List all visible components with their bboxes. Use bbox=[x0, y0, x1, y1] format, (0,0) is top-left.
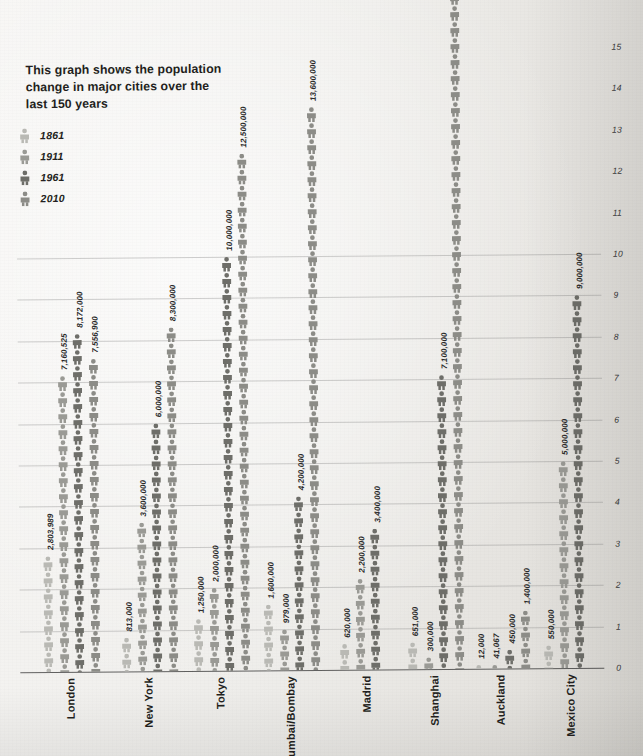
bar-value-label: 3,400,000 bbox=[372, 486, 381, 523]
bar-value-label: 1,250,000 bbox=[196, 577, 205, 614]
bar-value-label: 12,000 bbox=[477, 634, 486, 659]
bar-fill bbox=[220, 257, 236, 671]
bar-fill bbox=[262, 604, 276, 670]
bar-1961[interactable]: 4,200,000 bbox=[292, 496, 306, 670]
bar-fill bbox=[304, 107, 321, 670]
bar-value-label: 1,600,000 bbox=[266, 562, 275, 599]
bar-value-label: 8,300,000 bbox=[168, 285, 177, 322]
bar-1861[interactable]: 651,000 bbox=[406, 642, 419, 669]
bar-1861[interactable]: 1,600,000 bbox=[262, 604, 276, 670]
bar-value-label: 979,000 bbox=[282, 594, 291, 624]
bar-value-label: 6,000,000 bbox=[154, 380, 163, 417]
bar-fill bbox=[503, 650, 516, 669]
bar-group-new-york: 813,0003,600,0006,000,0008,300,000 bbox=[115, 1, 182, 671]
bar-1861[interactable]: 12,000 bbox=[472, 665, 485, 669]
bar-group-london: 2,803,9897,160,5258,172,0007,556,900 bbox=[37, 2, 104, 672]
bar-value-label: 2,000,000 bbox=[211, 546, 220, 583]
bar-1911[interactable]: 2,000,000 bbox=[207, 588, 221, 671]
bar-value-label: 2,200,000 bbox=[357, 536, 366, 573]
bar-fill bbox=[338, 644, 351, 670]
bar-1961[interactable]: 3,400,000 bbox=[368, 529, 382, 670]
bar-1961[interactable]: 10,000,000 bbox=[220, 257, 236, 671]
bar-2010[interactable]: 8,300,000 bbox=[164, 328, 180, 672]
bar-1911[interactable]: 300,000 bbox=[422, 657, 435, 670]
bar-group-madrid: 620,0002,200,0003,400,000 bbox=[333, 0, 385, 670]
bar-fill bbox=[435, 375, 450, 669]
bar-value-label: 7,160,525 bbox=[60, 333, 69, 370]
bar-1861[interactable]: 2,803,989 bbox=[41, 556, 55, 672]
bar-value-label: 7,556,900 bbox=[91, 316, 100, 353]
bar-1911[interactable]: 3,600,000 bbox=[135, 522, 149, 671]
bar-1961[interactable]: 8,172,000 bbox=[71, 334, 87, 672]
bar-fill bbox=[406, 642, 419, 669]
bar-fill bbox=[120, 638, 133, 672]
bar-fill bbox=[149, 423, 164, 671]
bar-fill bbox=[71, 334, 87, 672]
bar-1961[interactable]: 450,000 bbox=[503, 650, 516, 669]
bar-1911[interactable]: 979,000 bbox=[277, 630, 290, 671]
bar-fill bbox=[277, 630, 290, 671]
bar-1911[interactable]: 41,067 bbox=[488, 665, 501, 669]
bar-fill bbox=[86, 359, 101, 672]
bar-value-label: 4,200,000 bbox=[296, 454, 305, 491]
bar-group-mumbai-bombay: 1,600,000979,0004,200,00013,600,000 bbox=[257, 0, 324, 670]
bar-fill bbox=[41, 556, 55, 672]
bar-value-label: 450,000 bbox=[507, 614, 516, 644]
bar-fill bbox=[55, 376, 70, 673]
bar-value-label: 13,600,000 bbox=[309, 60, 318, 101]
bar-group-shanghai: 651,000300,0007,100,00019,500,000 bbox=[401, 0, 468, 669]
bar-value-label: 8,172,000 bbox=[75, 291, 84, 328]
bar-fill bbox=[353, 579, 367, 670]
bar-fill bbox=[192, 619, 205, 671]
bar-1961[interactable]: 7,100,000 bbox=[435, 375, 450, 669]
bar-1861[interactable]: 1,250,000 bbox=[192, 619, 205, 671]
bar-2010[interactable]: 12,500,000 bbox=[235, 153, 252, 671]
bar-fill bbox=[164, 328, 180, 672]
bar-value-label: 2,803,989 bbox=[46, 514, 55, 551]
bar-1861[interactable]: 620,000 bbox=[338, 644, 351, 670]
bar-2010[interactable]: 7,556,900 bbox=[86, 359, 101, 672]
bar-1911[interactable]: 7,160,525 bbox=[55, 376, 70, 673]
bar-fill bbox=[207, 588, 221, 671]
bar-fill bbox=[135, 522, 149, 671]
bar-value-label: 620,000 bbox=[342, 608, 351, 638]
bar-value-label: 41,067 bbox=[492, 634, 501, 659]
bar-fill bbox=[488, 665, 501, 669]
bar-fill bbox=[472, 665, 485, 669]
bar-value-label: 12,500,000 bbox=[239, 106, 248, 147]
bar-2010[interactable]: 13,600,000 bbox=[304, 107, 321, 670]
page-shadow-bottom bbox=[0, 686, 643, 756]
bar-fill bbox=[368, 529, 382, 670]
bar-fill bbox=[292, 496, 306, 670]
bar-value-label: 3,600,000 bbox=[139, 480, 148, 517]
bar-1861[interactable]: 813,000 bbox=[120, 638, 133, 672]
bar-value-label: 813,000 bbox=[124, 602, 133, 632]
bar-value-label: 7,100,000 bbox=[439, 333, 448, 370]
bar-1961[interactable]: 6,000,000 bbox=[149, 423, 164, 671]
bar-value-label: 300,000 bbox=[426, 621, 435, 651]
bar-fill bbox=[422, 657, 435, 670]
page-shadow-right bbox=[523, 0, 643, 756]
bar-1911[interactable]: 2,200,000 bbox=[353, 579, 367, 670]
bar-group-tokyo: 1,250,0002,000,00010,000,00012,500,000 bbox=[187, 1, 254, 671]
bar-value-label: 651,000 bbox=[410, 607, 419, 637]
plot-area: 2,803,9897,160,5258,172,0007,556,900Lond… bbox=[15, 0, 604, 672]
bar-fill bbox=[235, 153, 252, 671]
bar-value-label: 10,000,000 bbox=[224, 210, 233, 251]
